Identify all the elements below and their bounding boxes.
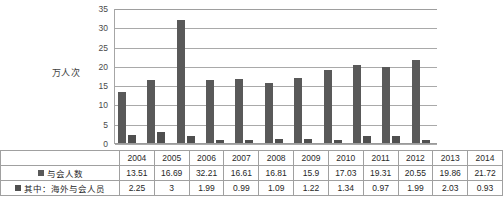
table-year-header-2004: 2004	[120, 151, 155, 166]
y-tick-15: 15	[99, 82, 108, 90]
table-year-header-2005: 2005	[154, 151, 189, 166]
bar-attendees-2008	[235, 79, 243, 144]
bar-group-2007	[203, 9, 232, 144]
y-axis-tick-labels: 05101520253035	[86, 0, 112, 152]
table-cell: 20.55	[398, 166, 433, 181]
table-cell: 2.03	[433, 181, 468, 196]
bar-group-2010	[291, 9, 320, 144]
table-year-header-2009: 2009	[294, 151, 329, 166]
table-year-header-2013: 2013	[433, 151, 468, 166]
bar-group-2014	[409, 9, 438, 144]
y-tick-25: 25	[99, 44, 108, 52]
table-cell: 15.9	[294, 166, 329, 181]
gridline-0	[115, 144, 437, 145]
table-year-header-2012: 2012	[398, 151, 433, 166]
table-corner-cell	[1, 151, 120, 166]
table-year-header-2008: 2008	[259, 151, 294, 166]
table-cell: 19.86	[433, 166, 468, 181]
table-row: 其中：海外与会人员2.2531.990.991.091.221.340.971.…	[1, 181, 503, 196]
table-cell: 0.93	[468, 181, 503, 196]
bar-group-2012	[350, 9, 379, 144]
table-cell: 19.31	[363, 166, 398, 181]
table-cell: 2.25	[120, 181, 155, 196]
bar-attendees-2012	[353, 65, 361, 144]
table-cell: 1.34	[328, 181, 363, 196]
table-cell: 32.21	[189, 166, 224, 181]
series-name: 与会人数	[47, 169, 83, 179]
table-cell: 1.99	[398, 181, 433, 196]
table-cell: 17.03	[328, 166, 363, 181]
table-cell: 16.69	[154, 166, 189, 181]
bar-group-2009	[262, 9, 291, 144]
bar-group-2004	[115, 9, 144, 144]
bar-attendees-2010	[294, 78, 302, 144]
table-year-header-2006: 2006	[189, 151, 224, 166]
table-row: 与会人数13.5116.6932.2116.6116.8115.917.0319…	[1, 166, 503, 181]
table-cell: 1.22	[294, 181, 329, 196]
bar-attendees-2009	[265, 83, 273, 144]
table-row-label-overseas: 其中：海外与会人员	[1, 181, 120, 196]
table-cell: 16.61	[224, 166, 259, 181]
series-name: 其中：海外与会人员	[24, 184, 105, 194]
data-table: 2004200520062007200820092010201120122013…	[0, 150, 503, 196]
bar-series-container	[115, 9, 437, 144]
table-cell: 0.99	[224, 181, 259, 196]
table-year-header-2007: 2007	[224, 151, 259, 166]
table-cell: 3	[154, 181, 189, 196]
data-table-wrap: 2004200520062007200820092010201120122013…	[0, 150, 442, 196]
table-year-header-2014: 2014	[468, 151, 503, 166]
bar-group-2005	[144, 9, 173, 144]
y-tick-20: 20	[99, 63, 108, 71]
bar-attendees-2006	[177, 20, 185, 144]
table-year-header-2011: 2011	[363, 151, 398, 166]
plot-area	[114, 9, 437, 144]
x-axis-line	[115, 143, 437, 144]
bar-attendees-2014	[412, 60, 420, 144]
bar-group-2013	[379, 9, 408, 144]
table-header-row: 2004200520062007200820092010201120122013…	[1, 151, 503, 166]
table-cell: 0.97	[363, 181, 398, 196]
bar-attendees-2004	[118, 92, 126, 144]
bar-attendees-2007	[206, 80, 214, 144]
table-row-label-attendees: 与会人数	[1, 166, 120, 181]
table-cell: 21.72	[468, 166, 503, 181]
bar-chart: 万人次 05101520253035	[0, 0, 442, 152]
table-cell: 13.51	[120, 166, 155, 181]
y-tick-30: 30	[99, 24, 108, 32]
y-tick-0: 0	[103, 140, 108, 148]
table-cell: 16.81	[259, 166, 294, 181]
bar-attendees-2011	[324, 70, 332, 144]
bar-group-2011	[321, 9, 350, 144]
bar-group-2008	[232, 9, 261, 144]
legend-swatch-attendees-icon	[38, 170, 44, 176]
y-tick-35: 35	[99, 5, 108, 13]
y-tick-5: 5	[103, 121, 108, 129]
y-tick-10: 10	[99, 101, 108, 109]
table-cell: 1.09	[259, 181, 294, 196]
table-cell: 1.99	[189, 181, 224, 196]
bar-group-2006	[174, 9, 203, 144]
bar-attendees-2005	[147, 80, 155, 144]
table-year-header-2010: 2010	[328, 151, 363, 166]
bar-attendees-2013	[382, 67, 390, 144]
legend-swatch-overseas-icon	[15, 185, 21, 191]
